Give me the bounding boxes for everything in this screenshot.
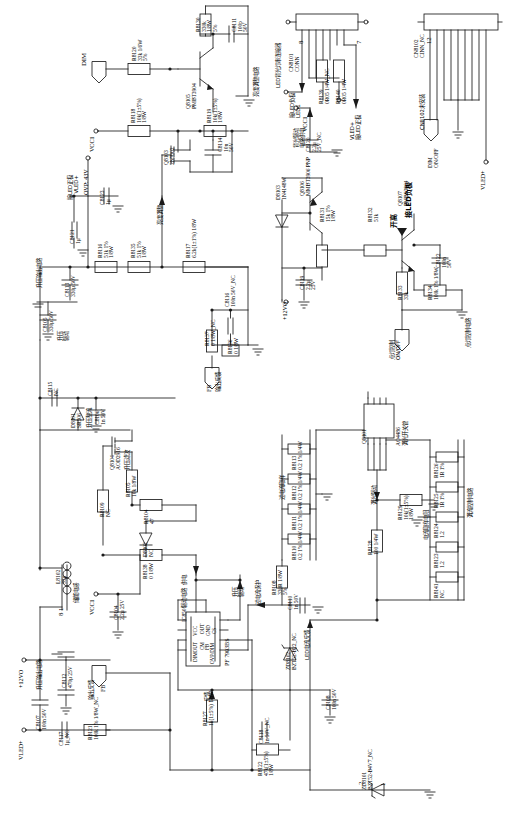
ic-pin-dimout: DIMOUT	[193, 642, 198, 662]
ref-C8106: C8106 1n 50V	[95, 409, 106, 425]
block-overcurrent-protect: 过电流保护	[256, 580, 262, 605]
ref-R8104: R8104 47	[144, 510, 155, 524]
ref-C8108: C8108 100n 50V	[326, 689, 337, 710]
block-boost-output2: 升压输出电路	[37, 661, 43, 690]
ref-C8116: C8116 100n 50V_NC	[225, 275, 236, 307]
ref-R8134: R8134 100k 1% 1/8W	[428, 267, 439, 300]
ref-R8110: R8110 0.2 1% 1/4W	[292, 531, 303, 560]
ref-L8102: L8102 33μ	[56, 570, 67, 584]
ref-C8114: C8114 10n 50V	[218, 138, 235, 152]
ref-R8112: R8112 0.2 1% 1/4W	[292, 471, 303, 500]
ref-R8129: R8129 10k(1±5%) 1/8W	[398, 495, 415, 520]
block-light-on-control-circuit: 点灯控制电路	[466, 319, 472, 348]
block-boost-filter: 升压 驱动	[58, 331, 69, 341]
ref-R8131: R8131 15k 1% 1/8W	[320, 205, 337, 222]
ref-Q8101-part: AO4486	[396, 427, 402, 446]
net-label-vcc1-bottom: VCC1	[89, 600, 95, 615]
label-zd8101-pin2: 2	[358, 782, 365, 785]
ref-R8128: R8128 100 1/4W	[368, 534, 379, 555]
ref-Q8105: Q8105 PMBT3904	[186, 83, 197, 109]
ref-R8141: R8141 NC	[434, 584, 445, 598]
net-label-vled-cn8102: VLED+	[480, 171, 486, 191]
ref-IC8501: IC8501	[182, 606, 188, 622]
ref-R8132: R8132 51k	[368, 208, 379, 222]
label-vled-connector: VLED+ 接LED正极	[350, 115, 361, 140]
ref-CN8102: CN8102 CINN_NC	[414, 34, 425, 58]
net-label-vcc1-top: VCC1	[89, 137, 95, 152]
block-brightness-adjust: 亮度调整	[158, 205, 164, 225]
block-dimming-drive: 调光驱动	[372, 485, 378, 505]
ref-R8133: R8133 33k	[398, 286, 409, 300]
label-open-low: 开高	[391, 214, 398, 228]
block-energy-storage-inductor: 储能电感	[74, 583, 80, 603]
block-boost-output: 升压输出电路	[37, 259, 43, 288]
ref-R8120: R8120 33k 1/6W 5%	[132, 40, 149, 61]
ref-R8109: R8109 NC	[100, 503, 111, 517]
ref-R8136: R8136 0 1/8W	[228, 338, 239, 354]
block-cn8102-not-installed: CN8102未安装	[420, 94, 426, 130]
block-current-control-circuit: 调流控制电路	[468, 489, 474, 518]
ref-R8123: R8123 1.2	[434, 554, 445, 568]
net-label-12vo-right: +12VO	[282, 302, 288, 320]
block-led-backlight-connector: LED背光灯串连接器	[276, 43, 282, 88]
label-cn8101-pin8: 8	[298, 41, 305, 44]
ref-R8124: R8124 1.2	[434, 524, 445, 538]
ref-Q8103: Q8103 2N7002	[164, 148, 175, 165]
net-label-vcc1-bl: VCC1	[302, 117, 308, 132]
block-led-current-feedback: LED电流反馈	[305, 630, 311, 660]
ref-D8103: D8103 1N4148W	[276, 177, 287, 200]
ref-C8107: C8107 100n 50V	[36, 709, 47, 730]
ref-R8116: R8116 51k 1% 1/8W	[98, 241, 115, 258]
ref-C8115: C8115 NC	[48, 382, 59, 396]
block-dimming-switch-tube: 调光开关管	[403, 421, 409, 446]
block-current-sample-resistors: 电流取样电阻	[424, 511, 430, 540]
ic-pin-ovpdim: OVP/DIM	[210, 643, 215, 664]
ref-C8121: C8121 1μ	[70, 230, 81, 244]
label-connect-led-positive: 接LED正极 VLED+	[68, 175, 79, 200]
label-connect-led-negative: 接LED负极 LED1	[290, 93, 301, 118]
ic-pin-cs: CS	[212, 628, 217, 634]
ref-R8113: R8113 0.2 1% 1/4W	[292, 441, 303, 470]
net-label-dim: DIM	[81, 53, 88, 66]
ref-D8102: D8102 NC	[143, 542, 154, 557]
ref-C8110: C8110 1n 50V	[288, 594, 299, 610]
ref-Q8104: Q8104 AOD2916	[110, 447, 121, 470]
block-drive-circuit-supply: 驱动电路 供电	[182, 575, 188, 608]
ref-R8122: R8122 47k(1±5%) 1/8W	[258, 751, 275, 776]
ref-C8122: C8122 100n 50V	[436, 254, 453, 268]
label-fb-pin: FB	[100, 685, 106, 692]
ref-R8126: R8126 1R 1%	[434, 463, 445, 478]
ref-R8130: R8130 330k 1/8W 5%	[196, 18, 219, 32]
ref-R8121: R8121 100k 1% 1/8W_NC	[88, 697, 99, 740]
block-output-feedback-top: 输出反馈	[216, 372, 222, 392]
block-output-feedback: 输出反馈	[89, 680, 95, 700]
label-cn8102-pin12: 12	[426, 37, 433, 44]
ref-Q8106: Q8106 MMBT3906 PNP	[300, 157, 311, 196]
ic-part-number: PF 7903BS	[224, 639, 230, 666]
ref-D8101: D8101 SR506	[71, 413, 82, 428]
ref-R8117: R8117 6.2k(1±1%) 1/8W	[186, 219, 197, 258]
ref-C8104: C8104 2.2μ 25V	[114, 600, 125, 620]
ref-C8119: C8119 2.2μ 25V	[300, 276, 317, 290]
block-overcurrent-sample: 过电流取样	[280, 475, 286, 500]
block-brightness-adjust-circuit: 亮度调整电路	[254, 68, 260, 97]
label-zd8101-pin1: 1	[380, 783, 387, 786]
ref-R8139: R8139 0R05 1/4W_NC	[319, 69, 330, 104]
block-boost-output-circuit: 升压滤波	[125, 450, 131, 470]
ref-C8120: C8120 2.2μ 25V_NC	[306, 132, 323, 152]
ref-C8118: C8118 1n 50V_NC	[259, 718, 270, 744]
ref-R8108: R8108 330R 1/8W 5%	[272, 570, 289, 595]
ic-pin-vcc: VCC	[193, 626, 198, 636]
ref-C8113: C8113 330μ 50V	[65, 275, 76, 297]
ref-Q8101: Q8101	[362, 429, 368, 444]
ref-R8105: R8105 10k 1/8W	[126, 476, 137, 497]
label-pin8: 8	[58, 613, 65, 616]
ref-R8127: R8127 1k(1±5%) 1/8W	[203, 691, 214, 726]
ref-ZD8102: ZD8102 BZT52-B22_NC	[286, 633, 297, 670]
ref-R8111: R8111 0.2 1% 1/4W	[292, 501, 303, 530]
ref-C8105: C8105 330μ 50V	[43, 310, 54, 332]
label-light-on-control: 点灯控制 ON/OFF	[390, 340, 401, 360]
label-dim-onoff: DIM ON/OFF	[428, 149, 439, 168]
ref-C8117: C8117 1μ_NC	[59, 730, 70, 746]
ref-R8140: R8140 0R05 1/4W	[336, 79, 347, 104]
